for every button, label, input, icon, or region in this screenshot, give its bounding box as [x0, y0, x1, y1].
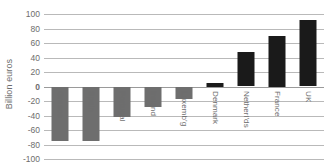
bar-slot[interactable]: France	[262, 14, 293, 159]
y-axis-tick-labels: 100806040200-20-40-60-80-100	[16, 0, 42, 168]
category-label: Greece	[55, 91, 64, 118]
category-label: France	[273, 91, 282, 117]
category-label: Spain	[86, 91, 95, 112]
bar-chart: Billion euros 100806040200-20-40-60-80-1…	[0, 0, 328, 168]
y-tick-label: 0	[35, 82, 40, 92]
y-tick-label: -40	[28, 111, 40, 121]
y-axis-title-text: Billion euros	[4, 59, 14, 109]
plot-area: GreeceSpainPortugalIrelandLuxemb'gDenmar…	[44, 14, 324, 159]
y-tick-label: -100	[23, 154, 40, 164]
bar-slot[interactable]: Luxemb'g	[168, 14, 199, 159]
category-label: Denmark	[211, 91, 220, 124]
bar[interactable]	[238, 52, 255, 87]
gridline	[44, 159, 324, 160]
bar-slot[interactable]: UK	[293, 14, 324, 159]
category-label: Ireland	[148, 91, 157, 116]
bar[interactable]	[300, 20, 317, 87]
category-label: UK	[304, 91, 313, 102]
bar[interactable]	[269, 36, 286, 87]
y-tick-label: 100	[26, 9, 40, 19]
category-label: Luxemb'g	[179, 91, 188, 126]
y-tick-label: -20	[28, 96, 40, 106]
bars-layer: GreeceSpainPortugalIrelandLuxemb'gDenmar…	[44, 14, 324, 159]
bar-slot[interactable]: Spain	[75, 14, 106, 159]
bar-slot[interactable]: Greece	[44, 14, 75, 159]
bar-slot[interactable]: Denmark	[200, 14, 231, 159]
bar-slot[interactable]: Netherl'ds	[231, 14, 262, 159]
y-tick-label: 80	[31, 24, 40, 34]
y-tick-label: 60	[31, 38, 40, 48]
bar[interactable]	[207, 83, 224, 87]
y-tick-label: -80	[28, 140, 40, 150]
y-tick-label: 20	[31, 67, 40, 77]
y-tick-label: -60	[28, 125, 40, 135]
bar-slot[interactable]: Ireland	[137, 14, 168, 159]
category-label: Portugal	[117, 91, 126, 122]
y-tick-label: 40	[31, 53, 40, 63]
category-label: Netherl'ds	[242, 91, 251, 128]
bar-slot[interactable]: Portugal	[106, 14, 137, 159]
